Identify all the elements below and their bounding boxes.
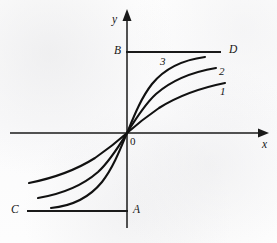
point-label-c: C xyxy=(11,204,19,216)
curve-label-3: 3 xyxy=(160,56,166,67)
curve-label-2: 2 xyxy=(219,66,225,77)
x-axis-arrow-icon xyxy=(258,129,269,138)
y-axis-label: y xyxy=(112,14,117,26)
point-label-d: D xyxy=(229,44,237,56)
y-axis-arrow-icon xyxy=(123,9,132,21)
point-label-a: A xyxy=(133,204,140,216)
x-axis-label: x xyxy=(262,139,267,151)
curve-label-1: 1 xyxy=(220,86,226,97)
point-label-b: B xyxy=(114,45,121,57)
origin-label: 0 xyxy=(130,136,136,147)
figure-container: y x 0 B D C A 1 2 3 xyxy=(0,0,277,243)
